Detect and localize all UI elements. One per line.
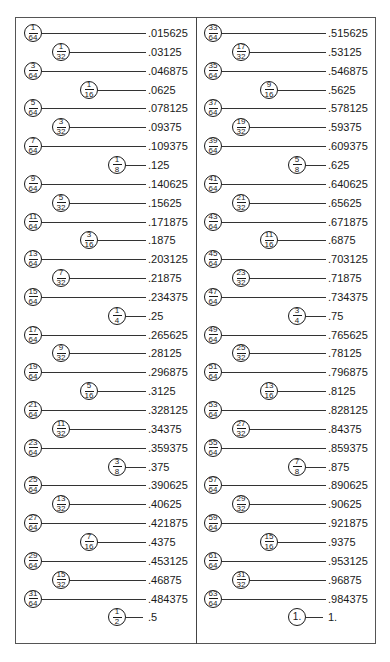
numerator: 13: [29, 250, 38, 258]
fraction-circle: 964: [24, 175, 42, 193]
decimal-value: .046875: [148, 65, 188, 77]
fraction-circle: 78: [288, 458, 306, 476]
decimal-value: .453125: [148, 555, 188, 567]
numerator: 1: [59, 43, 63, 51]
leader-line: [278, 542, 326, 543]
fraction-circle: 364: [24, 62, 42, 80]
fraction-circle: 3132: [232, 571, 250, 589]
fraction-circle: 716: [80, 533, 98, 551]
denominator: 32: [237, 53, 246, 61]
leader-line: [126, 316, 146, 317]
numerator: 11: [57, 420, 65, 428]
leader-line: [250, 278, 326, 279]
decimal-value: .6875: [328, 234, 356, 246]
leader-line: [250, 429, 326, 430]
numerator: 1: [31, 24, 35, 32]
denominator: 64: [209, 109, 218, 117]
numerator: 5: [59, 194, 63, 202]
denominator: 64: [29, 109, 38, 117]
numerator: 61: [209, 552, 218, 560]
decimal-value: .25: [148, 310, 163, 322]
decimal-value: .5: [148, 611, 157, 623]
leader-line: [98, 90, 146, 91]
decimal-value: .53125: [328, 46, 362, 58]
numerator: 57: [209, 476, 218, 484]
leader-line: [222, 410, 326, 411]
fraction-circle: 132: [52, 43, 70, 61]
fraction-circle: 6364: [204, 590, 222, 608]
fraction-circle: 732: [52, 269, 70, 287]
fraction-circle: 4164: [204, 175, 222, 193]
decimal-value: .140625: [148, 178, 188, 190]
denominator: 64: [209, 373, 218, 381]
numerator: 1: [115, 608, 119, 616]
numerator: 29: [29, 552, 38, 560]
numerator: 25: [237, 344, 246, 352]
fraction-circle: 916: [260, 81, 278, 99]
denominator: 16: [85, 91, 94, 99]
denominator: 32: [237, 204, 246, 212]
denominator: 64: [29, 260, 38, 268]
leader-line: [42, 222, 146, 223]
leader-line: [222, 108, 326, 109]
denominator: 64: [209, 449, 218, 457]
fraction-circle: 1132: [52, 420, 70, 438]
decimal-value: .875: [328, 461, 349, 473]
denominator: 64: [29, 449, 38, 457]
denominator: 8: [295, 468, 299, 476]
decimal-value: .75: [328, 310, 343, 322]
denominator: 32: [237, 581, 246, 589]
fraction-circle: 2164: [24, 401, 42, 419]
leader-line: [306, 316, 326, 317]
leader-line: [70, 504, 146, 505]
numerator: 55: [209, 439, 218, 447]
denominator: 32: [237, 354, 246, 362]
numerator: 11: [265, 231, 273, 239]
numerator: 3: [31, 62, 35, 70]
denominator: 32: [237, 505, 246, 513]
decimal-value: .953125: [328, 555, 368, 567]
denominator: 32: [57, 354, 66, 362]
leader-line: [250, 353, 326, 354]
numerator: 11: [29, 213, 37, 221]
leader-line: [222, 485, 326, 486]
denominator: 64: [209, 223, 218, 231]
denominator: 64: [29, 411, 38, 419]
decimal-value: .84375: [328, 423, 362, 435]
fraction-circle: 2964: [24, 552, 42, 570]
decimal-value: .609375: [328, 140, 368, 152]
leader-line: [222, 599, 326, 600]
numerator: 31: [237, 571, 246, 579]
numerator: 9: [31, 175, 35, 183]
numerator: 41: [209, 175, 218, 183]
decimal-value: .359375: [148, 442, 188, 454]
numerator: 7: [87, 533, 91, 541]
denominator: 64: [209, 147, 218, 155]
numerator: 17: [29, 326, 38, 334]
decimal-value: .640625: [328, 178, 368, 190]
leader-line: [42, 184, 146, 185]
decimal-value: .078125: [148, 102, 188, 114]
decimal-value: .671875: [328, 216, 368, 228]
numerator: 5: [87, 382, 91, 390]
decimal-value: .984375: [328, 593, 368, 605]
denominator: 16: [265, 241, 274, 249]
numerator: 19: [29, 363, 38, 371]
leader-line: [70, 580, 146, 581]
denominator: 32: [237, 128, 246, 136]
leader-line: [250, 580, 326, 581]
numerator: 59: [209, 514, 218, 522]
leader-line: [42, 335, 146, 336]
leader-line: [222, 71, 326, 72]
numerator: 1: [115, 307, 119, 315]
numerator: 13: [265, 382, 274, 390]
decimal-value: .328125: [148, 404, 188, 416]
leader-line: [42, 410, 146, 411]
decimal-value: .828125: [328, 404, 368, 416]
fraction-circle: 2764: [24, 514, 42, 532]
leader-line: [70, 52, 146, 53]
leader-line: [250, 203, 326, 204]
denominator: 64: [209, 411, 218, 419]
decimal-value: .71875: [328, 272, 362, 284]
numerator: 9: [267, 81, 271, 89]
